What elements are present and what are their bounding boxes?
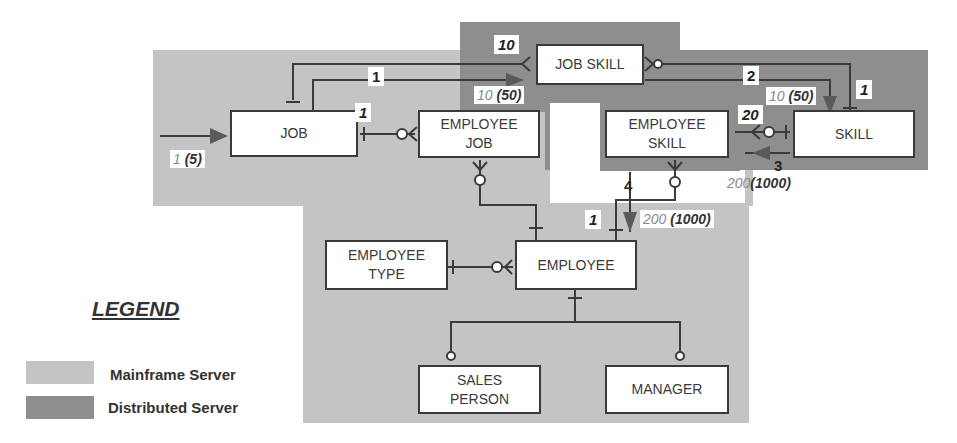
legend-swatch-distributed xyxy=(26,396,94,419)
count-employee-skill-volume: 200(1000) xyxy=(724,174,794,192)
count-job-skill-volume: 10 (50) xyxy=(474,86,524,104)
legend-swatch-mainframe xyxy=(26,361,94,384)
entity-label: EMPLOYEE xyxy=(537,256,614,275)
entity-job[interactable]: JOB xyxy=(230,110,358,157)
entity-label: JOB xyxy=(280,124,307,143)
entity-sales-person[interactable]: SALES PERSON xyxy=(418,365,541,414)
count-job-skill-in: 10 xyxy=(494,35,519,54)
legend-title: LEGEND xyxy=(92,297,180,321)
entity-label: SALES PERSON xyxy=(440,371,519,409)
entity-label: EMPLOYEE TYPE xyxy=(341,246,432,284)
access-step-3: 3 xyxy=(774,157,782,174)
entity-skill[interactable]: SKILL xyxy=(793,110,915,158)
entity-job-skill[interactable]: JOB SKILL xyxy=(536,44,644,85)
entity-employee-skill[interactable]: EMPLOYEE SKILL xyxy=(605,110,729,158)
entity-employee[interactable]: EMPLOYEE xyxy=(515,240,637,290)
entity-label: EMPLOYEE SKILL xyxy=(621,115,713,153)
access-step-1: 1 xyxy=(368,67,384,86)
entity-label: MANAGER xyxy=(632,380,703,399)
count-skill-in: 1 xyxy=(856,80,872,99)
count-skill-volume: 10 (50) xyxy=(766,87,816,105)
entity-label: SKILL xyxy=(835,125,873,144)
count-employee-skill-in: 20 xyxy=(738,105,763,124)
access-step-4: 4 xyxy=(624,177,632,194)
count-employee-volume: 200 (1000) xyxy=(640,210,714,228)
access-step-2: 2 xyxy=(743,66,759,85)
legend-label-mainframe: Mainframe Server xyxy=(110,366,236,383)
entity-manager[interactable]: MANAGER xyxy=(605,365,729,414)
entity-employee-type[interactable]: EMPLOYEE TYPE xyxy=(325,240,448,290)
entity-label: JOB SKILL xyxy=(555,55,624,74)
entity-label: EMPLOYEE JOB xyxy=(434,115,524,153)
count-job-employee-job: 1 xyxy=(355,103,371,122)
legend-label-distributed: Distributed Server xyxy=(108,399,238,416)
count-job-entry: 1 (5) xyxy=(170,150,205,168)
count-employee-in: 1 xyxy=(585,210,601,229)
entity-employee-job[interactable]: EMPLOYEE JOB xyxy=(418,110,540,158)
